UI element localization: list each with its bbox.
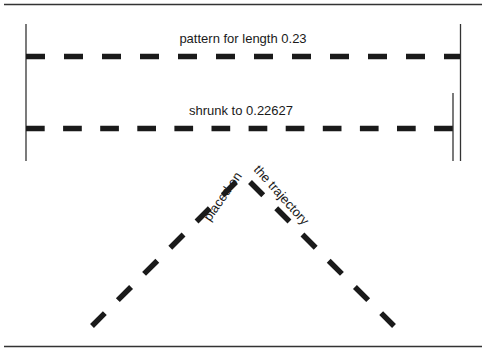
dash-pattern-diagram: pattern for length 0.23 shrunk to 0.2262… [0,0,487,348]
shrunk-label: shrunk to 0.22627 [189,103,293,118]
trajectory-right-arm [250,182,394,326]
placed-on-label: placed on [200,169,245,224]
pattern-label: pattern for length 0.23 [179,31,306,46]
